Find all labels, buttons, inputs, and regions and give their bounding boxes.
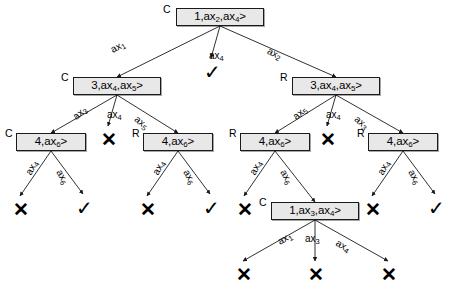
leaf-fail-icon: ✕ bbox=[101, 130, 117, 149]
tree-node-label: 3,ax4,ax5> bbox=[91, 80, 143, 92]
tree-node: 4,ax6> bbox=[240, 133, 310, 151]
tree-edge bbox=[244, 151, 275, 196]
tree-edge-label: ax3 bbox=[305, 234, 320, 244]
tree-node: 4,ax6> bbox=[16, 133, 86, 151]
tree-node-label: 4,ax6> bbox=[387, 136, 419, 148]
leaf-success-icon: ✓ bbox=[203, 198, 220, 218]
tree-node-tag: R bbox=[132, 128, 140, 139]
tree-node-label: 1,ax3,ax4> bbox=[289, 205, 341, 217]
tree-node-tag: C bbox=[5, 128, 13, 139]
tree-node-label: 4,ax6> bbox=[162, 136, 194, 148]
tree-node-label: 3,ax4,ax5> bbox=[310, 80, 362, 92]
tree-node-tag: R bbox=[280, 72, 288, 83]
tree-node: 4,ax6> bbox=[368, 133, 438, 151]
leaf-success-icon: ✓ bbox=[204, 62, 221, 82]
tree-node: 1,ax2,ax4> bbox=[176, 8, 264, 26]
tree-edge bbox=[147, 151, 178, 196]
leaf-success-icon: ✓ bbox=[428, 198, 445, 218]
leaf-fail-icon: ✕ bbox=[236, 265, 252, 284]
tree-edge bbox=[315, 220, 388, 261]
tree-node-tag: C bbox=[259, 197, 267, 208]
leaf-fail-icon: ✕ bbox=[308, 265, 324, 284]
tree-node-tag: R bbox=[229, 128, 237, 139]
tree-node: 1,ax3,ax4> bbox=[271, 202, 359, 220]
tree-edge bbox=[372, 151, 403, 196]
tree-node: 4,ax6> bbox=[143, 133, 213, 151]
tree-node-tag: C bbox=[61, 72, 69, 83]
tree-edge-label: ax4 bbox=[326, 110, 341, 120]
leaf-fail-icon: ✕ bbox=[320, 130, 336, 149]
leaf-fail-icon: ✕ bbox=[13, 200, 29, 219]
tree-node-tag: C bbox=[163, 4, 171, 15]
tree-edge bbox=[336, 95, 403, 133]
tree-edge bbox=[20, 151, 51, 196]
tree-node: 3,ax4,ax5> bbox=[73, 77, 161, 95]
leaf-fail-icon: ✕ bbox=[381, 265, 397, 284]
leaf-success-icon: ✓ bbox=[76, 198, 93, 218]
tree-node-label: 1,ax2,ax4> bbox=[194, 11, 246, 23]
tree-node: 3,ax4,ax5> bbox=[292, 77, 380, 95]
tree-node-label: 4,ax6> bbox=[35, 136, 67, 148]
leaf-fail-icon: ✕ bbox=[237, 200, 253, 219]
leaf-fail-icon: ✕ bbox=[365, 200, 381, 219]
leaf-fail-icon: ✕ bbox=[140, 200, 156, 219]
tree-edge bbox=[117, 95, 178, 133]
tree-edge-label: ax4 bbox=[107, 110, 122, 120]
tree-edge-label: ax4 bbox=[209, 51, 224, 61]
tree-node-label: 4,ax6> bbox=[259, 136, 291, 148]
